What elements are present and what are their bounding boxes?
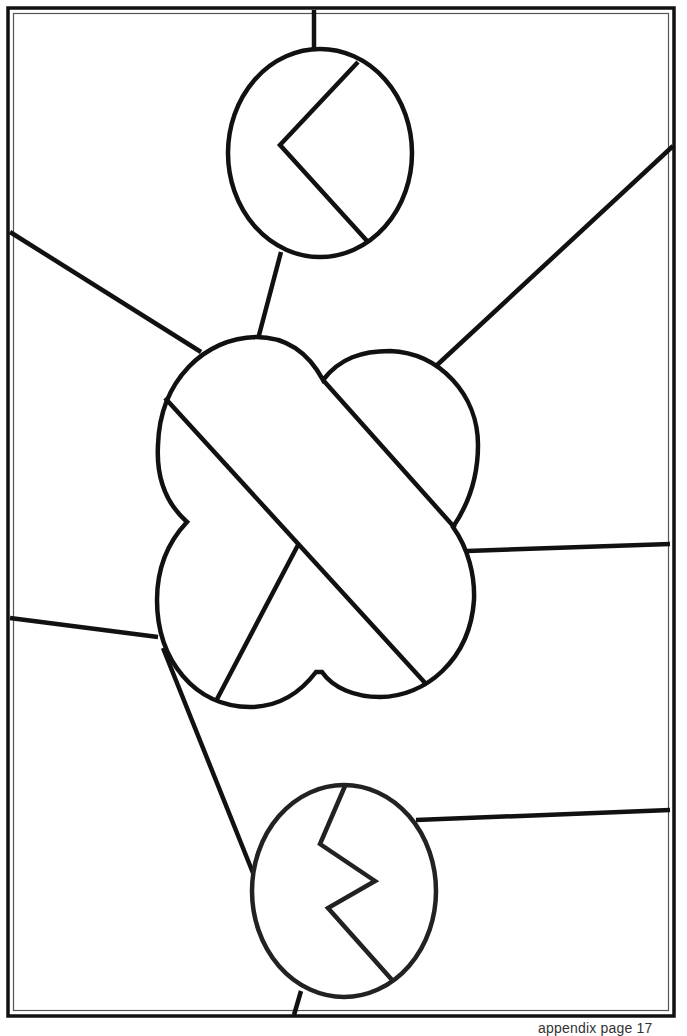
bottom-ellipse [252, 785, 436, 997]
center-quatrefoil-group [157, 337, 478, 707]
lead-line-right-upper [436, 146, 673, 366]
lead-line-right-middle [467, 544, 670, 551]
top-ellipse [228, 49, 412, 257]
lead-line-top-ellipse-to-center [258, 252, 281, 339]
lead-line-left-upper [10, 232, 201, 352]
bottom-ellipse-group [252, 785, 436, 997]
page-caption: appendix page 17 [538, 1020, 653, 1036]
lead-line-bottom-vertical [294, 991, 301, 1015]
top-ellipse-group [228, 49, 412, 257]
lead-line-left-lower [10, 618, 158, 637]
center-quatrefoil [157, 337, 478, 707]
lead-line-right-lower [416, 810, 670, 820]
